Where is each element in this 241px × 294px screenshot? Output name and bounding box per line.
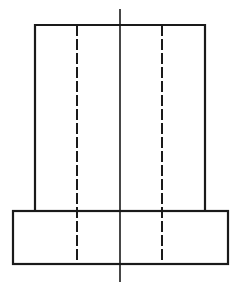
technical-drawing xyxy=(0,0,241,294)
